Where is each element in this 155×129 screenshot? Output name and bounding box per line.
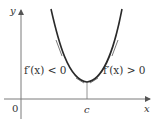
y-axis-label: y [9,5,16,16]
right-region-label: f′(x) > 0 [103,64,146,76]
critical-point-label: c [84,104,90,115]
left-region-label: f′(x) < 0 [24,64,67,76]
derivative-sign-diagram: y x 0 c f′(x) < 0 f′(x) > 0 [0,0,155,129]
x-axis-label: x [144,103,150,114]
origin-label: 0 [12,103,18,114]
